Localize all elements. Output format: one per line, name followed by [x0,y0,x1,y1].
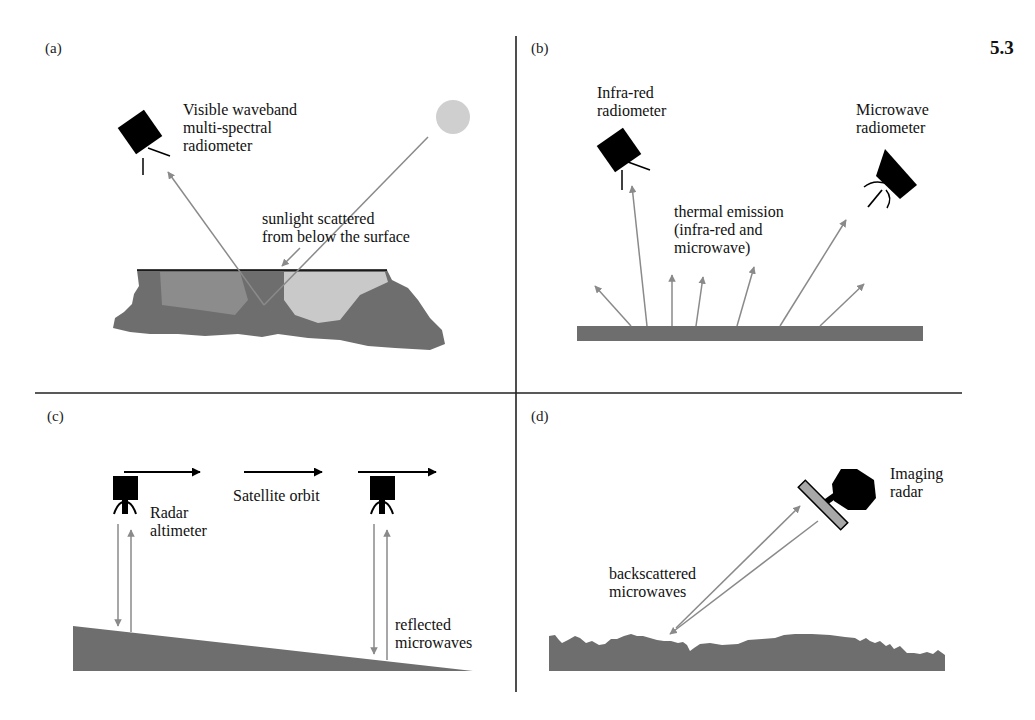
infrared-radiometer-label: Infra-red radiometer [597,84,666,120]
rough-surface [549,634,945,671]
scatter-label: sunlight scattered from below the surfac… [262,210,410,246]
microwave-radiometer-label: Microwave radiometer [856,101,929,137]
panel-d-letter: (d) [531,408,549,425]
satellite-orbit-label: Satellite orbit [233,487,320,505]
radar-altimeter-icon [113,476,138,514]
panel-b-letter: (b) [531,40,549,57]
radiometer-label: Visible waveband multi-spectral radiomet… [183,101,297,155]
radar-altimeter-label: Radar altimeter [150,504,207,540]
infrared-radiometer-icon [597,128,642,173]
radar-altimeter-icon-2 [370,476,395,514]
emitting-surface [577,326,923,341]
panel-a-letter: (a) [45,40,62,57]
panel-c-letter: (c) [47,408,64,425]
backscattered-microwaves-label: backscattered microwaves [609,565,696,601]
panel-dividers [35,36,962,692]
sun-icon [436,100,470,134]
radiometer-icon [118,110,163,155]
thermal-emission-label: thermal emission (infra-red and microwav… [674,203,784,257]
microwave-radiometer-icon [864,149,917,208]
reflected-microwaves-label: reflected microwaves [395,616,472,652]
imaging-radar-label: Imaging radar [890,465,943,501]
figure-number: 5.3 [990,37,1014,59]
imaging-radar-icon [798,469,876,530]
